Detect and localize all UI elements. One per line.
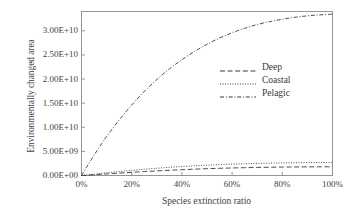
legend-line-sample-icon	[219, 62, 257, 72]
chart-figure: Environmentally changed area 0.00E+005.0…	[0, 0, 361, 216]
axis-ticks	[82, 31, 333, 176]
plot-area	[0, 0, 361, 216]
series-line-deep	[82, 167, 333, 176]
legend-label: Coastal	[262, 75, 291, 85]
legend-item-coastal[interactable]: Coastal	[219, 73, 315, 86]
legend-item-deep[interactable]: Deep	[219, 60, 315, 73]
legend-label: Deep	[262, 62, 282, 72]
legend-label: Pelagic	[262, 88, 290, 98]
legend-item-pelagic[interactable]: Pelagic	[219, 86, 315, 99]
chart-legend: DeepCoastalPelagic	[219, 60, 315, 99]
legend-line-sample-icon	[219, 88, 257, 98]
legend-line-sample-icon	[219, 75, 257, 85]
